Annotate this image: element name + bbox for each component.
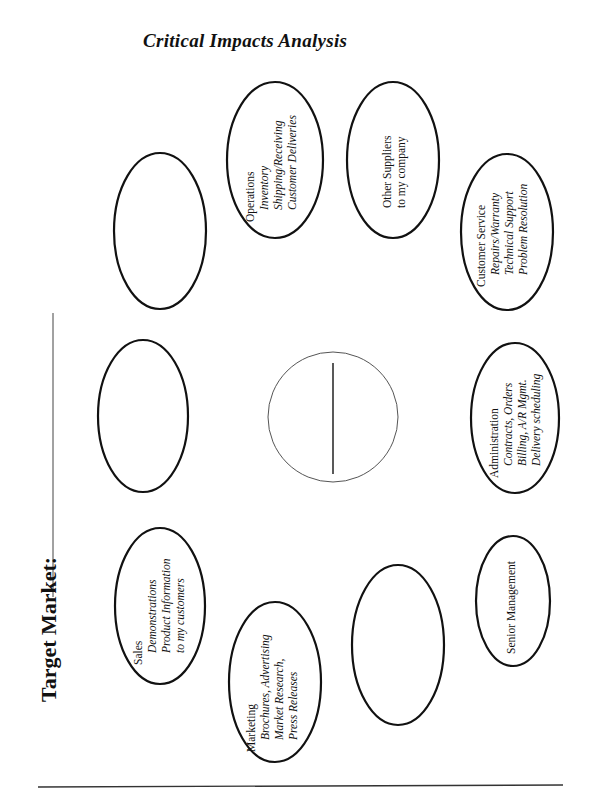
node-senior-management: Senior Management <box>504 561 518 654</box>
node-marketing: Marketing Brochures, Advertising Market … <box>244 634 300 752</box>
node-heading: Operations <box>243 115 257 222</box>
node-item: Shipping/Receiving <box>271 115 285 222</box>
ellipse-blank-3 <box>352 565 444 725</box>
node-item: Market Research, <box>272 634 286 752</box>
node-heading: Sales <box>131 559 145 665</box>
node-item: Contracts, Orders <box>501 374 515 478</box>
node-item: to my company <box>394 135 408 208</box>
node-item: Customer Deliveries <box>285 115 299 222</box>
node-sales: Sales Demonstrations Product Information… <box>131 559 187 665</box>
node-customer-service: Customer Service Repairs/Warranty Techni… <box>474 184 530 287</box>
node-item: Brochures, Advertising <box>258 634 272 752</box>
node-item: Inventory <box>257 115 271 222</box>
node-heading: Administration <box>487 374 501 478</box>
node-item: Problem Resolution <box>516 184 530 287</box>
node-heading: Other Suppliers <box>380 135 394 208</box>
target-market-label: Target Market: <box>36 557 62 702</box>
node-item: Press Releases <box>286 634 300 752</box>
node-heading: Customer Service <box>474 184 488 287</box>
node-item: Delivery scheduling <box>529 374 543 478</box>
node-item: Billing, A/R Mgmt. <box>515 374 529 478</box>
node-other-suppliers: Other Suppliers to my company <box>380 135 408 208</box>
ellipse-blank-2 <box>98 340 188 492</box>
node-item: Product Information <box>159 559 173 665</box>
node-item: to my customers <box>173 559 187 665</box>
node-item: Repairs/Warranty <box>488 184 502 287</box>
node-heading: Senior Management <box>504 561 518 654</box>
ellipse-blank-1 <box>114 153 206 309</box>
node-operations: Operations Inventory Shipping/Receiving … <box>243 115 299 222</box>
node-heading: Marketing <box>244 634 258 752</box>
node-item: Technical Support <box>502 184 516 287</box>
bottom-rule <box>38 785 563 787</box>
node-item: Demonstrations <box>145 559 159 665</box>
node-administration: Administration Contracts, Orders Billing… <box>487 374 543 478</box>
